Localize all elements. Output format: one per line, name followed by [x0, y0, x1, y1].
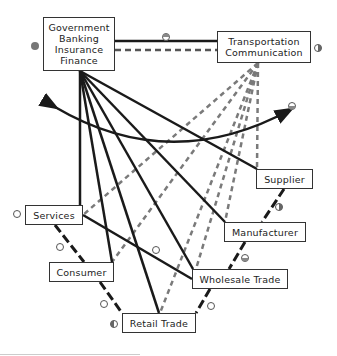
half-right-circle-icon: [276, 204, 283, 211]
wholesale-retail-line: [196, 289, 210, 313]
node-supplier-label: Supplier: [264, 174, 305, 185]
node-consumer: Consumer: [49, 262, 114, 282]
half-bottom-circle-icon: [242, 255, 249, 262]
node-wholesale-trade: Wholesale Trade: [192, 269, 288, 289]
node-government: Government Banking Insurance Finance: [43, 17, 115, 71]
node-government-line-4: Finance: [60, 55, 98, 66]
half-bottom-circle-icon: [289, 103, 296, 110]
transport-supplier-line: [257, 63, 258, 169]
open-circle-icon: [101, 301, 108, 308]
open-circle-icon: [153, 247, 160, 254]
gov-transport-links: [115, 41, 217, 50]
node-transportation-line-2: Communication: [225, 47, 302, 58]
node-wholesale-trade-label: Wholesale Trade: [200, 274, 281, 285]
node-transportation-line-1: Transportation: [228, 36, 299, 47]
filled-circle-icon: [31, 42, 39, 50]
node-manufacturer-label: Manufacturer: [232, 227, 298, 238]
node-retail-trade: Retail Trade: [122, 313, 196, 333]
node-government-line-3: Insurance: [55, 44, 103, 55]
open-circle-icon: [57, 244, 64, 251]
open-circle-icon: [208, 303, 215, 310]
node-government-line-1: Government: [48, 22, 109, 33]
node-supplier: Supplier: [256, 169, 313, 189]
node-services-label: Services: [33, 210, 75, 221]
node-transportation: Transportation Communication: [217, 31, 311, 63]
node-government-line-2: Banking: [59, 33, 99, 44]
node-manufacturer: Manufacturer: [224, 222, 306, 242]
open-circle-icon: [14, 211, 21, 218]
node-services: Services: [25, 205, 83, 225]
consumer-retail-line: [100, 282, 122, 313]
half-left-circle-icon: [111, 321, 118, 328]
node-retail-trade-label: Retail Trade: [130, 318, 188, 329]
page-edge-divider: [0, 354, 140, 355]
node-consumer-label: Consumer: [56, 267, 106, 278]
half-right-circle-icon: [315, 45, 322, 52]
goods-chain: [55, 189, 284, 313]
half-top-circle-icon: [163, 34, 170, 41]
